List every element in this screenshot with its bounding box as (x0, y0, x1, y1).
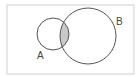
set-a-label: A (37, 50, 44, 61)
venn-diagram: A B (0, 0, 138, 77)
diagram-frame (7, 5, 134, 74)
set-b-label: B (116, 16, 123, 27)
